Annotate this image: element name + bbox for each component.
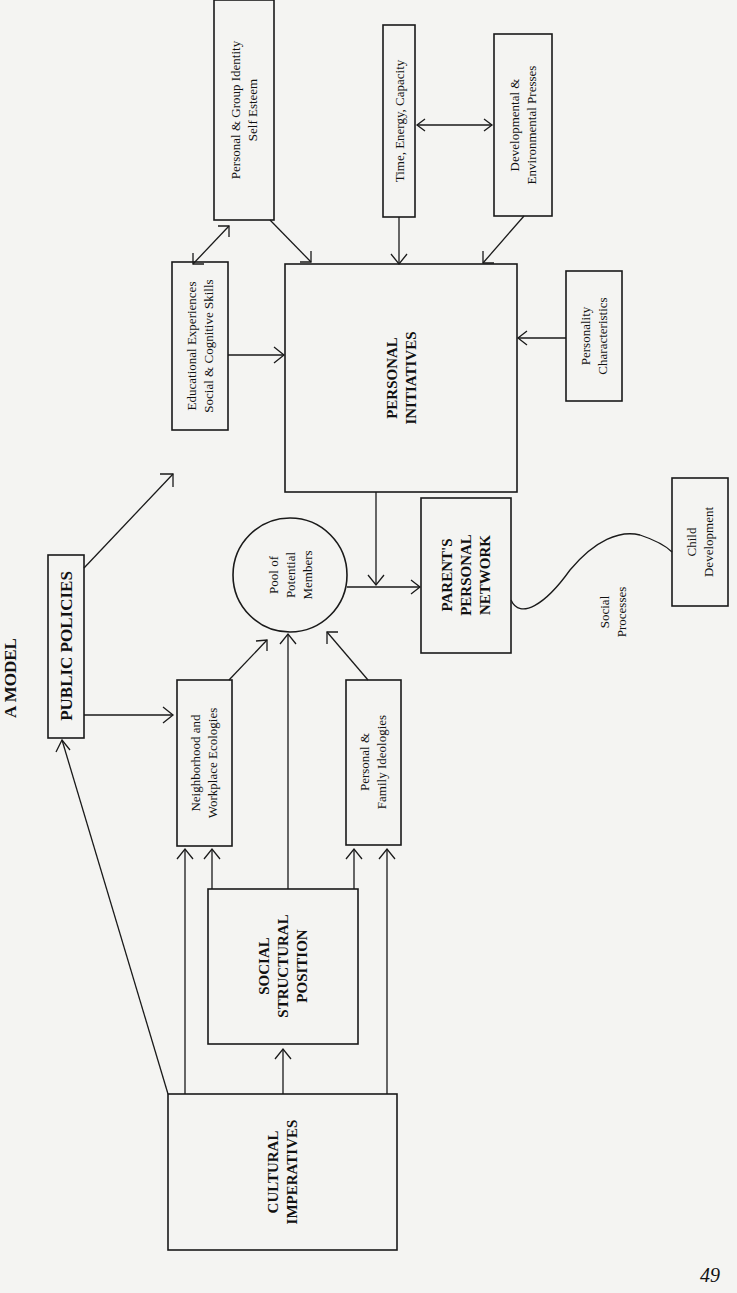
diagram-title: A MODEL xyxy=(1,638,20,718)
ideologies-label-line: Personal & xyxy=(357,733,372,791)
ideologies-label-line: Family Ideologies xyxy=(374,715,389,809)
network-label-line: PERSONAL xyxy=(458,534,474,616)
time-label: Time, Energy, Capacity xyxy=(392,59,407,182)
presses-label-line: Developmental & xyxy=(507,79,522,172)
arrow-educational-identity xyxy=(193,226,229,264)
cultural-box xyxy=(168,1094,397,1250)
presses-box xyxy=(494,34,552,216)
presses-label: Developmental &Environmental Presses xyxy=(507,66,539,185)
time-label-line: Time, Energy, Capacity xyxy=(392,59,407,182)
presses-label-line: Environmental Presses xyxy=(524,66,539,185)
arrow-ideologies-pool xyxy=(327,632,368,680)
arrow-cultural-policies xyxy=(62,740,168,1094)
cultural-label: CULTURALIMPERATIVES xyxy=(265,1120,300,1225)
pool-label-line: Members xyxy=(300,550,315,599)
pool-label-line: Pool of xyxy=(266,555,281,594)
public-policies-label: PUBLIC POLICIES xyxy=(57,571,76,721)
pool-label-line: Potential xyxy=(283,552,298,599)
social-structural-label-line: STRUCTURAL xyxy=(275,914,291,1017)
personal-initiatives-label-line: PERSONAL xyxy=(384,337,400,419)
arrow-identity-initiatives xyxy=(270,220,311,262)
arrow-neighborhood-pool xyxy=(229,640,267,680)
child-label: ChildDevelopment xyxy=(684,507,716,577)
identity-label: Personal & Group IdentitySelf Esteem xyxy=(228,40,260,179)
child-label-line: Development xyxy=(701,507,716,577)
social-processes-curve xyxy=(511,534,672,609)
personal-initiatives-label: PERSONALINITIATIVES xyxy=(384,331,419,424)
child-label-line: Child xyxy=(684,527,699,556)
public-policies-label-line: PUBLIC POLICIES xyxy=(57,571,76,721)
personality-label-line: Characteristics xyxy=(595,297,610,374)
network-label-line: NETWORK xyxy=(477,535,493,615)
social-processes-label-line: Social xyxy=(597,595,612,628)
identity-label-line: Self Esteem xyxy=(245,79,260,141)
arrow-policies-educational xyxy=(84,474,173,568)
personal-initiatives-box xyxy=(285,264,517,492)
social-structural-label-line: SOCIAL xyxy=(256,937,272,995)
neighborhood-label-line: Neighborhood and xyxy=(188,714,203,812)
identity-label-line: Personal & Group Identity xyxy=(228,40,243,179)
educational-box xyxy=(172,262,228,430)
pool-label: Pool ofPotentialMembers xyxy=(266,550,315,599)
cultural-label-line: IMPERATIVES xyxy=(284,1120,300,1225)
page-number: 49 xyxy=(700,1264,720,1286)
personality-label-line: Personality xyxy=(578,306,593,365)
educational-label-line: Social & Cognitive Skills xyxy=(201,279,216,412)
social-processes-label: SocialProcesses xyxy=(597,587,629,638)
arrowhead xyxy=(56,740,70,752)
network-label-line: PARENT'S xyxy=(439,538,455,611)
personality-label: PersonalityCharacteristics xyxy=(578,297,610,374)
social-structural-label: SOCIALSTRUCTURALPOSITION xyxy=(256,914,310,1017)
cultural-label-line: CULTURAL xyxy=(265,1131,281,1214)
neighborhood-label-line: Workplace Ecologies xyxy=(205,708,220,819)
child-box xyxy=(672,478,728,606)
social-structural-label-line: POSITION xyxy=(294,929,310,1003)
educational-label: Educational ExperiencesSocial & Cognitiv… xyxy=(184,279,216,412)
social-processes-label-line: Processes xyxy=(614,587,629,638)
neighborhood-label: Neighborhood andWorkplace Ecologies xyxy=(188,708,220,819)
network-model-diagram: A MODEL xyxy=(0,0,737,1293)
connectors xyxy=(56,119,672,1094)
personal-initiatives-label-line: INITIATIVES xyxy=(403,331,419,424)
identity-box xyxy=(214,0,274,220)
educational-label-line: Educational Experiences xyxy=(184,282,199,411)
personality-box xyxy=(566,271,622,401)
ideologies-label: Personal &Family Ideologies xyxy=(357,715,389,809)
arrow-presses-initiatives xyxy=(483,216,524,263)
network-label: PARENT'SPERSONALNETWORK xyxy=(439,534,493,616)
